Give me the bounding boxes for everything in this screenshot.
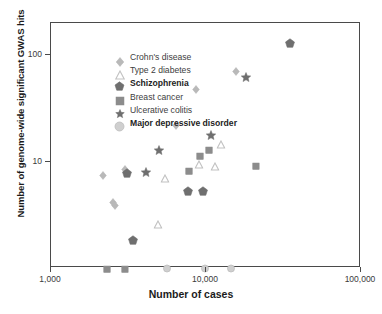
- data-point-type-2-diabetes: [160, 169, 169, 187]
- data-point-type-2-diabetes: [211, 157, 220, 175]
- x-tick-mark: [50, 267, 51, 272]
- pentagon-marker-icon: [113, 77, 126, 90]
- plot-area: Crohn's diseaseType 2 diabetesSchizophre…: [50, 22, 360, 267]
- star-marker-icon: [113, 104, 126, 117]
- y-tick-label: 100: [16, 49, 42, 59]
- legend-label: Type 2 diabetes: [130, 64, 191, 77]
- data-point-schizophrenia: [198, 183, 209, 201]
- triangle-marker-icon: [113, 64, 126, 77]
- data-point-schizophrenia: [182, 183, 193, 201]
- x-tick-mark: [205, 267, 206, 272]
- data-point-schizophrenia: [128, 232, 139, 250]
- x-tick-label: 10,000: [180, 274, 230, 284]
- data-point-breast-cancer: [196, 146, 205, 164]
- square-marker-icon: [113, 91, 126, 104]
- data-point-breast-cancer: [103, 259, 112, 277]
- legend-item-breast-cancer[interactable]: Breast cancer: [113, 91, 248, 104]
- data-point-crohn-s-disease: [120, 160, 129, 178]
- x-axis-title: Number of cases: [0, 288, 382, 300]
- data-point-ulcerative-colitis: [154, 142, 165, 160]
- data-point-crohn-s-disease: [111, 196, 120, 214]
- data-point-type-2-diabetes: [194, 155, 203, 173]
- data-point-crohn-s-disease: [98, 166, 107, 184]
- legend-label: Ulcerative colitis: [130, 104, 192, 117]
- data-point-ulcerative-colitis: [140, 164, 151, 182]
- y-axis-title: Number of genome-wide significant GWAS h…: [15, 0, 26, 239]
- diamond-marker-icon: [113, 51, 126, 64]
- data-point-crohn-s-disease: [108, 193, 117, 211]
- legend-item-schizophrenia[interactable]: Schizophrenia: [113, 77, 248, 90]
- legend-label: Crohn's disease: [130, 51, 191, 64]
- legend-label: Schizophrenia: [130, 77, 189, 90]
- legend-item-major-depressive-disorder[interactable]: Major depressive disorder: [113, 117, 248, 130]
- data-point-breast-cancer: [185, 161, 194, 179]
- chart-legend: Crohn's diseaseType 2 diabetesSchizophre…: [113, 51, 248, 130]
- data-point-schizophrenia: [285, 35, 296, 53]
- legend-item-type-2-diabetes[interactable]: Type 2 diabetes: [113, 64, 248, 77]
- legend-label: Breast cancer: [130, 91, 183, 104]
- gwas-scatter-figure: Number of genome-wide significant GWAS h…: [0, 0, 382, 314]
- legend-item-ulcerative-colitis[interactable]: Ulcerative colitis: [113, 104, 248, 117]
- data-point-major-depressive-disorder: [162, 259, 171, 277]
- data-point-type-2-diabetes: [217, 135, 226, 153]
- x-tick-mark: [360, 267, 361, 272]
- data-point-breast-cancer: [121, 259, 130, 277]
- circle-marker-icon: [113, 117, 126, 130]
- x-tick-label: 1,000: [25, 274, 75, 284]
- y-tick-label: 10: [16, 156, 42, 166]
- data-point-type-2-diabetes: [153, 215, 162, 233]
- legend-label: Major depressive disorder: [130, 117, 237, 130]
- data-point-breast-cancer: [252, 156, 261, 174]
- x-tick-label: 100,000: [335, 274, 382, 284]
- legend-item-crohn-s-disease[interactable]: Crohn's disease: [113, 51, 248, 64]
- data-point-schizophrenia: [122, 165, 133, 183]
- data-point-breast-cancer: [205, 140, 214, 158]
